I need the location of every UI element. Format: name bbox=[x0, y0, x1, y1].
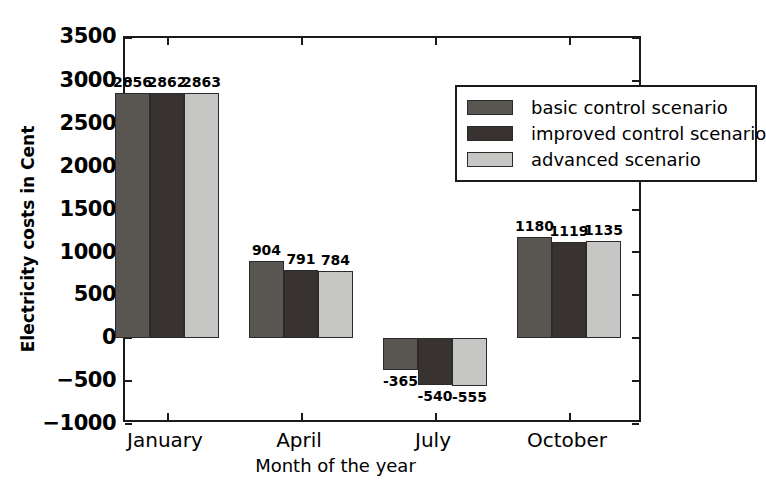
y-tick-label-3500: 3500 bbox=[60, 24, 116, 48]
x-tick-mark-october bbox=[569, 413, 571, 420]
bar-april-series-3 bbox=[318, 271, 353, 338]
y-tick-mark-right-minus1000 bbox=[632, 423, 639, 425]
x-tick-mark-top-january bbox=[167, 38, 169, 45]
bar-july-series-3 bbox=[452, 338, 487, 386]
y-tick-label-3000: 3000 bbox=[60, 68, 116, 92]
y-tick-mark-right-3000 bbox=[632, 80, 639, 82]
bar-value-label-january-series-3: 2863 bbox=[182, 74, 221, 90]
legend-label-advanced: advanced scenario bbox=[531, 149, 701, 170]
x-tick-label-july: July bbox=[415, 428, 451, 452]
y-tick-mark-right-minus500 bbox=[632, 380, 639, 382]
y-tick-mark-right-1000 bbox=[632, 251, 639, 253]
bar-value-label-july-series-3: -555 bbox=[452, 389, 487, 405]
bar-value-label-october-series-2: 1119 bbox=[550, 223, 589, 239]
plot-area: 285628622863904791784-365-540-5551180111… bbox=[123, 36, 641, 422]
bar-value-label-april-series-2: 791 bbox=[286, 251, 315, 267]
x-tick-mark-april bbox=[301, 413, 303, 420]
legend-item-improved-control-scenario[interactable]: improved control scenario bbox=[467, 120, 745, 146]
x-tick-label-april: April bbox=[276, 428, 322, 452]
legend-item-basic-control-scenario[interactable]: basic control scenario bbox=[467, 94, 745, 120]
bar-january-series-1 bbox=[115, 93, 150, 338]
bar-october-series-1 bbox=[517, 237, 552, 338]
bar-value-label-july-series-2: -540 bbox=[417, 388, 452, 404]
legend-item-advanced-scenario[interactable]: advanced scenario bbox=[467, 146, 745, 172]
bar-july-series-2 bbox=[418, 338, 453, 384]
y-tick-mark-minus500 bbox=[125, 380, 132, 382]
y-tick-label-500: 500 bbox=[74, 282, 116, 306]
y-axis-title: Electricity costs in Cent bbox=[18, 89, 38, 389]
y-tick-label-0: 0 bbox=[102, 325, 116, 349]
x-tick-mark-top-october bbox=[569, 38, 571, 45]
bar-january-series-3 bbox=[184, 93, 219, 339]
y-tick-mark-right-3500 bbox=[632, 37, 639, 39]
legend-swatch-icon-advanced bbox=[467, 152, 513, 167]
y-tick-mark-right-500 bbox=[632, 294, 639, 296]
bar-october-series-2 bbox=[552, 242, 587, 338]
x-tick-mark-july bbox=[435, 413, 437, 420]
bar-value-label-april-series-3: 784 bbox=[321, 252, 350, 268]
legend-label-basic: basic control scenario bbox=[531, 97, 728, 118]
bar-value-label-january-series-1: 2856 bbox=[113, 74, 152, 90]
y-tick-label-2500: 2500 bbox=[60, 111, 116, 135]
x-axis-title: Month of the year bbox=[0, 455, 671, 476]
bar-value-label-october-series-3: 1135 bbox=[584, 222, 623, 238]
chart-legend: basic control scenario improved control … bbox=[455, 85, 757, 182]
y-tick-label-minus500: −500 bbox=[57, 368, 116, 392]
bar-july-series-1 bbox=[383, 338, 418, 369]
y-tick-mark-3500 bbox=[125, 37, 132, 39]
bar-april-series-2 bbox=[284, 270, 319, 338]
y-tick-mark-right-0 bbox=[632, 337, 639, 339]
y-tick-label-2000: 2000 bbox=[60, 154, 116, 178]
y-tick-label-1000: 1000 bbox=[60, 240, 116, 264]
x-tick-mark-january bbox=[167, 413, 169, 420]
legend-swatch-icon-improved bbox=[467, 126, 513, 141]
x-tick-label-january: January bbox=[127, 428, 203, 452]
bar-value-label-july-series-1: -365 bbox=[383, 373, 418, 389]
legend-label-improved: improved control scenario bbox=[531, 123, 766, 144]
x-tick-mark-top-april bbox=[301, 38, 303, 45]
y-tick-mark-right-1500 bbox=[632, 209, 639, 211]
bar-value-label-january-series-2: 2862 bbox=[148, 74, 187, 90]
y-tick-mark-minus1000 bbox=[125, 423, 132, 425]
x-tick-label-october: October bbox=[527, 428, 607, 452]
x-tick-mark-top-july bbox=[435, 38, 437, 45]
y-tick-label-1500: 1500 bbox=[60, 197, 116, 221]
bar-april-series-1 bbox=[249, 261, 284, 339]
bar-january-series-2 bbox=[150, 93, 185, 338]
bar-value-label-october-series-1: 1180 bbox=[515, 218, 554, 234]
legend-swatch-icon-basic bbox=[467, 100, 513, 115]
bar-value-label-april-series-1: 904 bbox=[252, 242, 281, 258]
y-tick-label-minus1000: −1000 bbox=[42, 411, 116, 435]
bar-october-series-3 bbox=[586, 241, 621, 338]
